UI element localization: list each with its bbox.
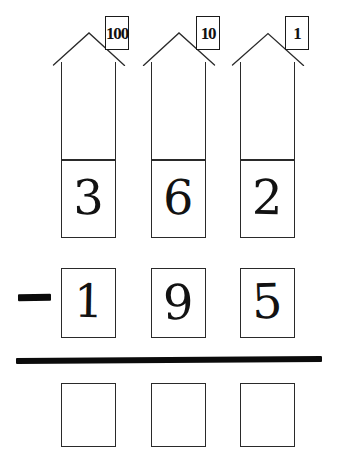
place-value-column-tens: 10 6 9 bbox=[151, 0, 207, 469]
place-value-subtraction-worksheet: 100 3 1 10 6 9 bbox=[0, 0, 340, 469]
subtrahend-cell-hundreds: 1 bbox=[61, 268, 116, 338]
minuend-digit-tens: 6 bbox=[162, 172, 194, 221]
house-body-tens bbox=[151, 62, 206, 160]
subtrahend-cell-tens: 9 bbox=[151, 268, 206, 338]
house-body-hundreds bbox=[61, 62, 116, 160]
house-body-ones bbox=[240, 62, 295, 160]
minuend-cell-hundreds: 3 bbox=[61, 160, 116, 238]
place-value-column-ones: 1 2 5 bbox=[240, 0, 296, 469]
answer-box-ones[interactable] bbox=[240, 383, 295, 447]
subtrahend-cell-ones: 5 bbox=[240, 268, 295, 338]
place-label-ones: 1 bbox=[285, 16, 309, 50]
place-label-hundreds: 100 bbox=[105, 16, 129, 50]
minuend-digit-ones: 2 bbox=[252, 173, 283, 222]
minus-operator-icon bbox=[18, 294, 51, 301]
subtrahend-digit-tens: 9 bbox=[163, 278, 194, 327]
answer-box-tens[interactable] bbox=[151, 383, 206, 447]
place-label-tens: 10 bbox=[196, 16, 220, 50]
answer-box-hundreds[interactable] bbox=[61, 383, 116, 447]
subtrahend-digit-hundreds: 1 bbox=[73, 278, 103, 325]
place-value-column-hundreds: 100 3 1 bbox=[61, 0, 117, 469]
minuend-cell-ones: 2 bbox=[240, 160, 295, 238]
minuend-digit-hundreds: 3 bbox=[73, 173, 105, 222]
subtrahend-digit-ones: 5 bbox=[251, 276, 283, 325]
minuend-cell-tens: 6 bbox=[151, 160, 206, 238]
